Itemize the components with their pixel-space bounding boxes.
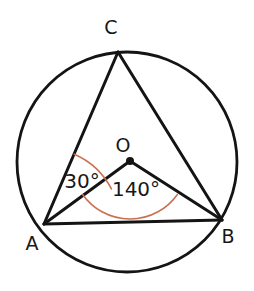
geometry-figure: A B C O 30° 140° — [0, 0, 254, 291]
angle-value-140: 140° — [112, 177, 160, 201]
geometry-canvas: A B C O 30° 140° — [0, 0, 254, 291]
vertex-label-b: B — [221, 225, 234, 247]
center-label-o: O — [116, 134, 131, 156]
angle-value-30: 30° — [64, 169, 99, 193]
vertex-label-a: A — [26, 232, 39, 254]
vertex-label-c: C — [104, 16, 117, 38]
center-point-dot — [126, 157, 134, 165]
